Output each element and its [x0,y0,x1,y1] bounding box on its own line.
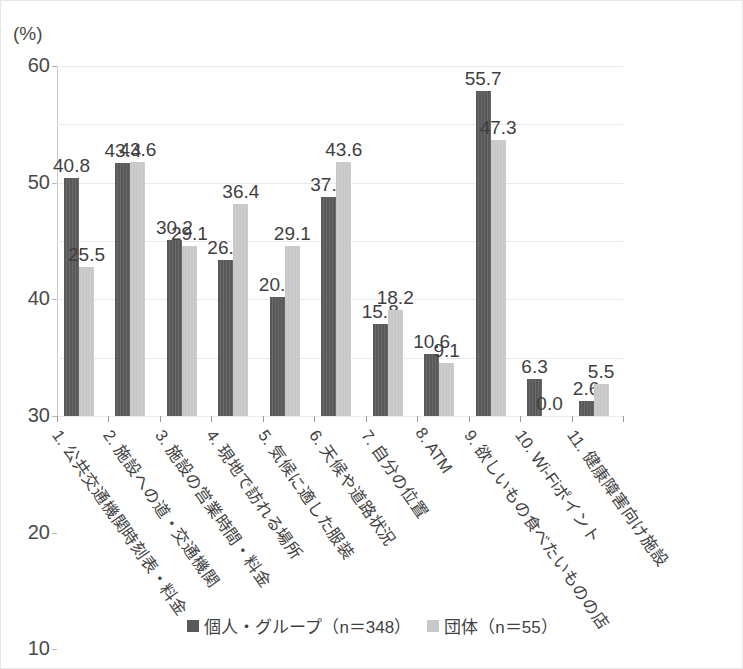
bar-group[interactable]: 55.747.3 [469,66,520,416]
legend-swatch-icon [427,620,439,632]
y-axis-tick-label: 30 [28,404,50,427]
bar-group[interactable]: 30.229.1 [160,66,211,416]
legend-swatch-icon [187,620,199,632]
x-axis-tick-mark [211,416,212,422]
gridline: 0 [57,416,623,417]
bar-value-label: 43.6 [325,139,362,161]
bar-value-label: 5.5 [588,361,614,383]
bar-value-label: 29.1 [274,223,311,245]
bar[interactable] [167,240,182,416]
x-axis-tick-mark [366,416,367,422]
bar-value-label: 55.7 [465,68,502,90]
bar[interactable] [439,363,454,416]
bar-value-label: 40.8 [53,155,90,177]
x-axis-tick-mark [57,416,58,422]
x-axis-tick-mark [108,416,109,422]
y-axis-tick-mark [52,649,57,650]
chart-legend: 個人・グループ（n＝348）団体（n＝55） [1,613,743,638]
bar[interactable] [270,297,285,416]
bar-group[interactable]: 10.69.1 [417,66,468,416]
bar[interactable] [594,384,609,416]
y-axis-tick-label: 10 [28,637,50,660]
x-axis-tick-mark [263,416,264,422]
chart-page: (%) 0102030405060 40.825.543.443.630.229… [0,0,743,669]
bar-value-label: 18.2 [377,287,414,309]
y-axis-tick-label: 50 [28,171,50,194]
bar[interactable] [491,140,506,416]
legend-label: 団体（n＝55） [444,613,557,638]
bar[interactable] [476,91,491,416]
bar-value-label: 6.3 [521,356,547,378]
x-axis-tick-mark [623,416,624,422]
bar[interactable] [79,267,94,416]
bar-group[interactable]: 20.429.1 [263,66,314,416]
bar[interactable] [115,163,130,416]
bar-value-label: 36.4 [222,181,259,203]
bar[interactable] [388,310,403,416]
x-axis-category-label: 8. ATM [412,424,457,477]
bar-value-label: 9.1 [433,340,459,362]
bar-value-label: 47.3 [480,117,517,139]
bar-group[interactable]: 43.443.6 [108,66,159,416]
x-axis-tick-mark [520,416,521,422]
x-axis-tick-mark [160,416,161,422]
bar-value-label: 43.6 [119,139,156,161]
bar[interactable] [64,178,79,416]
bar[interactable] [182,246,197,416]
bar-group[interactable]: 6.30.0 [520,66,571,416]
x-axis-tick-mark [417,416,418,422]
bar-value-label: 25.5 [68,244,105,266]
bar[interactable] [218,260,233,416]
bar[interactable] [321,197,336,416]
legend-item[interactable]: 個人・グループ（n＝348） [187,613,411,638]
bars-layer: 40.825.543.443.630.229.126.736.420.429.1… [57,66,623,416]
bar[interactable] [130,162,145,416]
bar-group[interactable]: 37.643.6 [314,66,365,416]
bar-value-label: 29.1 [171,223,208,245]
x-axis-tick-mark [314,416,315,422]
bar[interactable] [336,162,351,416]
y-axis-tick-label: 60 [28,54,50,77]
x-axis-tick-mark [572,416,573,422]
bar-group[interactable]: 15.818.2 [366,66,417,416]
legend-item[interactable]: 団体（n＝55） [427,613,557,638]
bar[interactable] [373,324,388,416]
y-axis-tick-mark [52,533,57,534]
x-axis-tick-mark [469,416,470,422]
bar-group[interactable]: 40.825.5 [57,66,108,416]
bar-value-label: 0.0 [536,393,562,415]
bar[interactable] [424,354,439,416]
bar[interactable] [233,204,248,416]
bar[interactable] [285,246,300,416]
legend-label: 個人・グループ（n＝348） [204,613,411,638]
y-axis-tick-label: 20 [28,521,50,544]
y-axis-unit-label: (%) [13,23,43,45]
y-axis-tick-label: 40 [28,287,50,310]
bar-group[interactable]: 26.736.4 [211,66,262,416]
bar-group[interactable]: 2.65.5 [572,66,623,416]
bar[interactable] [579,401,594,416]
